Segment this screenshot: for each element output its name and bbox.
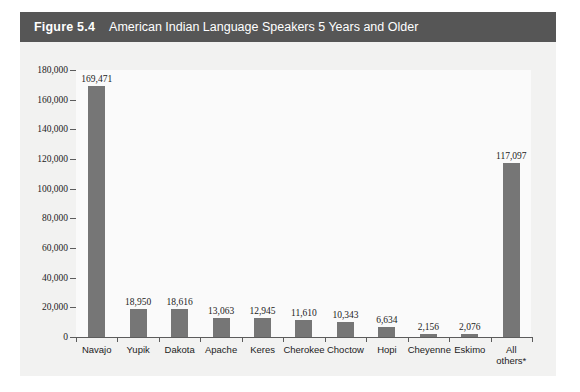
bar-value-label: 117,097 bbox=[496, 151, 527, 161]
bar[interactable] bbox=[171, 309, 188, 337]
x-axis-category-label: Navajo bbox=[76, 344, 117, 355]
y-axis-tick-label: 120,000 bbox=[37, 154, 68, 164]
bar[interactable] bbox=[254, 318, 271, 337]
x-axis-tick bbox=[449, 337, 450, 342]
bar[interactable] bbox=[503, 163, 520, 337]
x-axis-category-label: Cherokee bbox=[283, 344, 324, 355]
y-axis-tick-label: 40,000 bbox=[42, 273, 68, 283]
bar[interactable] bbox=[420, 334, 437, 337]
bar-value-label: 169,471 bbox=[81, 74, 112, 84]
x-axis-category-label: Hopi bbox=[366, 344, 407, 355]
x-axis-tick bbox=[532, 337, 533, 342]
bar-slot: 2,156 bbox=[408, 70, 449, 337]
bar-slot: 10,343 bbox=[325, 70, 366, 337]
x-axis-tick bbox=[76, 337, 77, 342]
x-axis-tick bbox=[408, 337, 409, 342]
y-axis-tick-label: 20,000 bbox=[42, 302, 68, 312]
bar[interactable] bbox=[461, 334, 478, 337]
bar[interactable] bbox=[295, 320, 312, 337]
x-axis-category-label: Apache bbox=[200, 344, 241, 355]
bar[interactable] bbox=[213, 318, 230, 337]
figure-panel: Figure 5.4 American Indian Language Spea… bbox=[20, 12, 556, 376]
x-axis-tick bbox=[283, 337, 284, 342]
bar[interactable] bbox=[130, 309, 147, 337]
x-axis-tick bbox=[491, 337, 492, 342]
x-axis-category-label: Choctow bbox=[325, 344, 366, 355]
bar-slot: 117,097 bbox=[491, 70, 532, 337]
bar-value-label: 6,634 bbox=[376, 315, 397, 325]
x-axis-tick bbox=[159, 337, 160, 342]
bar-slot: 11,610 bbox=[283, 70, 324, 337]
y-axis-tick-label: 140,000 bbox=[37, 124, 68, 134]
figure-number: Figure 5.4 bbox=[34, 20, 95, 34]
y-axis-tick-label: 60,000 bbox=[42, 243, 68, 253]
bar-slot: 12,945 bbox=[242, 70, 283, 337]
y-axis-tick-label: 180,000 bbox=[37, 65, 68, 75]
bar[interactable] bbox=[88, 86, 105, 337]
x-axis-category-label: Cheyenne bbox=[408, 344, 449, 355]
x-axis-category-label: Yupik bbox=[117, 344, 158, 355]
x-axis-category-label: Dakota bbox=[159, 344, 200, 355]
y-axis-tick-label: 0 bbox=[63, 332, 68, 342]
bar[interactable] bbox=[378, 327, 395, 337]
bar-value-label: 11,610 bbox=[291, 308, 317, 318]
x-axis-tick bbox=[200, 337, 201, 342]
x-axis-tick bbox=[117, 337, 118, 342]
bar-value-label: 10,343 bbox=[332, 310, 358, 320]
x-axis-category-label: Eskimo bbox=[449, 344, 490, 355]
y-axis-tick-label: 80,000 bbox=[42, 213, 68, 223]
bar-slot: 18,950 bbox=[117, 70, 158, 337]
bar-slot: 13,063 bbox=[200, 70, 241, 337]
y-axis-tick-label: 160,000 bbox=[37, 95, 68, 105]
bar-value-label: 18,616 bbox=[167, 297, 193, 307]
bar-slot: 18,616 bbox=[159, 70, 200, 337]
bar-slot: 169,471 bbox=[76, 70, 117, 337]
bar[interactable] bbox=[337, 322, 354, 337]
y-axis-tick-label: 100,000 bbox=[37, 184, 68, 194]
figure-caption: American Indian Language Speakers 5 Year… bbox=[109, 20, 418, 34]
bar-value-label: 18,950 bbox=[125, 297, 151, 307]
bar-value-label: 2,076 bbox=[459, 322, 480, 332]
bar-slot: 6,634 bbox=[366, 70, 407, 337]
bar-series: 169,47118,95018,61613,06312,94511,61010,… bbox=[76, 70, 532, 337]
bar-value-label: 12,945 bbox=[249, 306, 275, 316]
chart-plot-area: 020,00040,00060,00080,000100,000120,0001… bbox=[20, 42, 556, 376]
x-axis-tick bbox=[325, 337, 326, 342]
bar-value-label: 2,156 bbox=[418, 322, 439, 332]
x-axis-category-label: All others* bbox=[491, 344, 532, 366]
x-axis-line bbox=[76, 337, 532, 338]
x-axis-tick bbox=[366, 337, 367, 342]
figure-title-bar: Figure 5.4 American Indian Language Spea… bbox=[20, 12, 556, 42]
bar-value-label: 13,063 bbox=[208, 306, 234, 316]
x-axis-tick bbox=[242, 337, 243, 342]
x-axis-category-label: Keres bbox=[242, 344, 283, 355]
bar-slot: 2,076 bbox=[449, 70, 490, 337]
